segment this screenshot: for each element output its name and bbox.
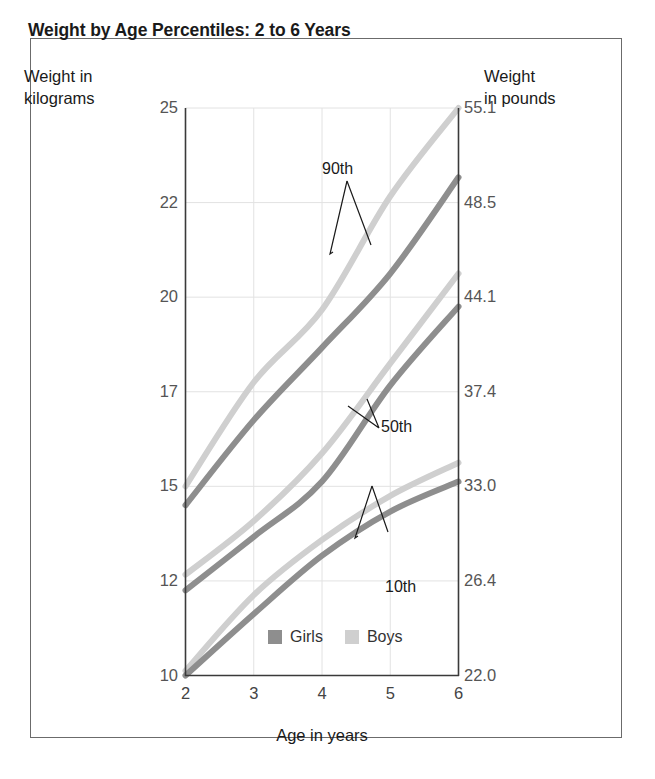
right-axis-caption-line1: Weight xyxy=(484,67,535,85)
y-tick-right: 44.1 xyxy=(464,287,512,306)
legend-swatch-boys xyxy=(345,630,359,644)
legend-swatch-girls xyxy=(268,630,282,644)
x-axis-title: Age in years xyxy=(185,726,459,745)
y-tick-left: 10 xyxy=(138,666,178,685)
y-tick-right: 26.4 xyxy=(464,571,512,590)
y-tick-left: 25 xyxy=(138,98,178,117)
annotation-10th: 10th xyxy=(385,578,416,596)
legend-label-boys: Boys xyxy=(367,628,403,646)
y-tick-right: 55.1 xyxy=(464,98,512,117)
legend-item-girls[interactable]: Girls xyxy=(268,628,323,646)
left-axis-caption: Weight in kilograms xyxy=(24,66,144,110)
legend-label-girls: Girls xyxy=(290,628,323,646)
x-tick: 6 xyxy=(444,684,474,703)
x-tick: 2 xyxy=(171,684,201,703)
y-tick-right: 48.5 xyxy=(464,193,512,212)
y-tick-right: 33.0 xyxy=(464,476,512,495)
y-tick-left: 17 xyxy=(138,382,178,401)
legend-item-boys[interactable]: Boys xyxy=(345,628,403,646)
x-tick: 4 xyxy=(307,684,337,703)
x-tick: 3 xyxy=(239,684,269,703)
page-title: Weight by Age Percentiles: 2 to 6 Years xyxy=(28,20,351,41)
left-axis-caption-line2: kilograms xyxy=(24,89,95,107)
y-tick-right: 37.4 xyxy=(464,382,512,401)
y-tick-left: 22 xyxy=(138,193,178,212)
y-tick-left: 15 xyxy=(138,476,178,495)
left-axis-caption-line1: Weight in xyxy=(24,67,92,85)
annotation-90th: 90th xyxy=(322,160,353,178)
legend: Girls Boys xyxy=(268,628,402,646)
x-tick: 5 xyxy=(375,684,405,703)
y-tick-left: 12 xyxy=(138,571,178,590)
y-tick-left: 20 xyxy=(138,287,178,306)
annotation-50th: 50th xyxy=(381,418,412,436)
y-tick-right: 22.0 xyxy=(464,666,512,685)
